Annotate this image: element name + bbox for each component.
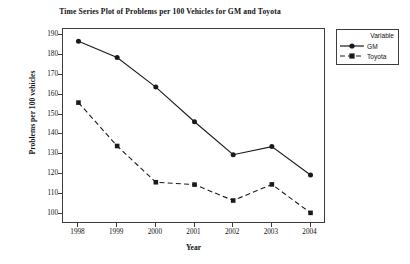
series-line-gm [78, 41, 310, 175]
series-line-toyota [78, 103, 310, 213]
x-tick-mark [232, 223, 233, 227]
y-tick-label: 190 [36, 30, 58, 38]
legend-entry-toyota[interactable]: Toyota [340, 51, 395, 61]
x-tick-label: 1999 [96, 228, 136, 236]
x-tick-label: 2001 [174, 228, 214, 236]
y-axis-label: Problems per 100 vehicles [28, 38, 37, 188]
y-tick-mark [58, 133, 62, 134]
data-point-gm[interactable] [192, 119, 197, 124]
x-tick-mark [194, 223, 195, 227]
data-point-gm[interactable] [153, 85, 158, 90]
legend-label-gm: GM [364, 43, 378, 50]
legend-title: Variable [340, 32, 395, 39]
y-tick-mark [58, 173, 62, 174]
x-tick-mark [116, 223, 117, 227]
legend: Variable GM Toyota [336, 29, 399, 65]
x-tick-label: 2000 [135, 228, 175, 236]
data-point-gm[interactable] [115, 55, 120, 60]
plot-svg [63, 29, 326, 224]
y-tick-label: 160 [36, 90, 58, 98]
chart-figure: Time Series Plot of Problems per 100 Veh… [0, 0, 410, 264]
y-tick-label: 180 [36, 50, 58, 58]
legend-label-toyota: Toyota [364, 53, 386, 60]
data-point-gm[interactable] [231, 152, 236, 157]
y-tick-label: 150 [36, 110, 58, 118]
data-point-toyota[interactable] [308, 211, 313, 216]
y-tick-mark [58, 153, 62, 154]
legend-line-sample-dashed [340, 51, 364, 61]
x-tick-label: 2003 [251, 228, 291, 236]
y-tick-mark [58, 114, 62, 115]
y-tick-label: 170 [36, 70, 58, 78]
x-tick-mark [77, 223, 78, 227]
x-tick-label: 1998 [57, 228, 97, 236]
x-tick-mark [155, 223, 156, 227]
data-point-toyota[interactable] [231, 198, 236, 203]
plot-area [62, 28, 325, 223]
y-tick-mark [58, 54, 62, 55]
x-tick-mark [271, 223, 272, 227]
x-tick-label: 2002 [212, 228, 252, 236]
data-point-gm[interactable] [308, 173, 313, 178]
data-point-toyota[interactable] [115, 144, 120, 149]
data-point-toyota[interactable] [192, 182, 197, 187]
y-tick-mark [58, 193, 62, 194]
y-axis-tick-labels: 100110120130140150160170180190 [34, 0, 58, 264]
data-point-toyota[interactable] [270, 182, 275, 187]
data-point-gm[interactable] [269, 144, 274, 149]
legend-entry-gm[interactable]: GM [340, 41, 395, 51]
x-tick-label: 2004 [290, 228, 330, 236]
data-point-toyota[interactable] [76, 100, 81, 105]
data-point-gm[interactable] [76, 39, 81, 44]
y-tick-mark [58, 94, 62, 95]
y-tick-mark [58, 34, 62, 35]
y-tick-label: 100 [36, 209, 58, 217]
y-tick-mark [58, 213, 62, 214]
y-tick-mark [58, 74, 62, 75]
legend-line-sample-solid [340, 41, 364, 51]
y-tick-label: 130 [36, 149, 58, 157]
x-tick-mark [310, 223, 311, 227]
data-point-toyota[interactable] [154, 180, 159, 185]
y-tick-label: 140 [36, 129, 58, 137]
x-axis-label: Year [62, 243, 325, 252]
y-tick-label: 110 [36, 189, 58, 197]
y-tick-label: 120 [36, 169, 58, 177]
